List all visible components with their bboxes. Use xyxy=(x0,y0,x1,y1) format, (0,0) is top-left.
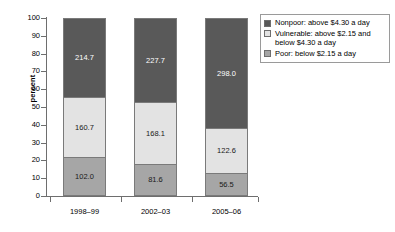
y-tick-mark xyxy=(41,36,46,37)
legend-item[interactable]: Poor: below $2.15 a day xyxy=(264,49,386,59)
bar-value-label: 227.7 xyxy=(146,57,165,65)
y-tick-mark xyxy=(41,160,46,161)
chart-legend: Nonpoor: above $4.30 a dayVulnerable: ab… xyxy=(260,14,390,63)
bar-segment[interactable]: 122.6 xyxy=(206,128,247,174)
y-tick-label: 90 xyxy=(32,31,40,40)
legend-item[interactable]: Vulnerable: above $2.15 and below $4.30 … xyxy=(264,29,386,48)
x-tick-mark xyxy=(192,197,193,202)
x-axis-category-label: 2002–03 xyxy=(121,207,191,216)
y-tick-mark xyxy=(41,89,46,90)
y-tick-mark xyxy=(41,196,46,197)
stacked-bar[interactable]: 227.7168.181.6 xyxy=(134,18,177,196)
bar-value-label: 160.7 xyxy=(75,124,94,132)
bar-segment[interactable]: 214.7 xyxy=(64,19,105,97)
bar-segment[interactable]: 81.6 xyxy=(135,164,176,195)
y-axis-line xyxy=(46,17,47,197)
y-tick-mark xyxy=(41,71,46,72)
bar-segment[interactable]: 160.7 xyxy=(64,97,105,156)
bar-value-label: 122.6 xyxy=(217,147,236,155)
bar-value-label: 298.0 xyxy=(217,70,236,78)
y-tick-mark xyxy=(41,54,46,55)
legend-label: Nonpoor: above $4.30 a day xyxy=(275,18,370,28)
y-tick-label: 40 xyxy=(32,120,40,129)
chart-figure: percent 0102030405060708090100 214.7160.… xyxy=(0,0,395,232)
x-axis-category-label: 1998–99 xyxy=(50,207,120,216)
legend-label: Poor: below $2.15 a day xyxy=(275,49,356,59)
x-axis-category-label: 2005–06 xyxy=(192,207,262,216)
legend-swatch-icon xyxy=(264,20,271,27)
bar-value-label: 102.0 xyxy=(75,173,94,181)
x-axis-line xyxy=(46,196,258,197)
plot-area: 0102030405060708090100 214.7160.7102.022… xyxy=(46,17,251,197)
y-tick-label: 50 xyxy=(32,102,40,111)
bar-value-label: 81.6 xyxy=(148,176,163,184)
legend-swatch-icon xyxy=(264,50,271,57)
legend-label: Vulnerable: above $2.15 and below $4.30 … xyxy=(275,29,386,48)
x-tick-mark xyxy=(258,197,259,202)
bar-segment[interactable]: 227.7 xyxy=(135,19,176,102)
y-tick-label: 10 xyxy=(32,173,40,182)
stacked-bar[interactable]: 298.0122.656.5 xyxy=(205,18,248,196)
y-tick-label: 0 xyxy=(36,191,40,200)
stacked-bar[interactable]: 214.7160.7102.0 xyxy=(63,18,106,196)
y-tick-label: 80 xyxy=(32,49,40,58)
y-tick-label: 70 xyxy=(32,66,40,75)
bar-segment[interactable]: 168.1 xyxy=(135,102,176,164)
bar-value-label: 168.1 xyxy=(146,130,165,138)
y-tick-mark xyxy=(41,143,46,144)
bar-segment[interactable]: 102.0 xyxy=(64,157,105,195)
y-tick-mark xyxy=(41,125,46,126)
bar-value-label: 214.7 xyxy=(75,54,94,62)
legend-swatch-icon xyxy=(264,30,271,37)
x-tick-mark xyxy=(121,197,122,202)
y-tick-label: 100 xyxy=(27,13,40,22)
bar-segment[interactable]: 298.0 xyxy=(206,19,247,128)
y-tick-label: 20 xyxy=(32,155,40,164)
legend-item[interactable]: Nonpoor: above $4.30 a day xyxy=(264,18,386,28)
bar-value-label: 56.5 xyxy=(219,181,234,189)
y-tick-label: 60 xyxy=(32,84,40,93)
y-tick-mark xyxy=(41,107,46,108)
y-tick-label: 30 xyxy=(32,138,40,147)
y-tick-mark xyxy=(41,178,46,179)
bar-segment[interactable]: 56.5 xyxy=(206,173,247,195)
y-tick-mark xyxy=(41,18,46,19)
x-tick-mark xyxy=(50,197,51,202)
